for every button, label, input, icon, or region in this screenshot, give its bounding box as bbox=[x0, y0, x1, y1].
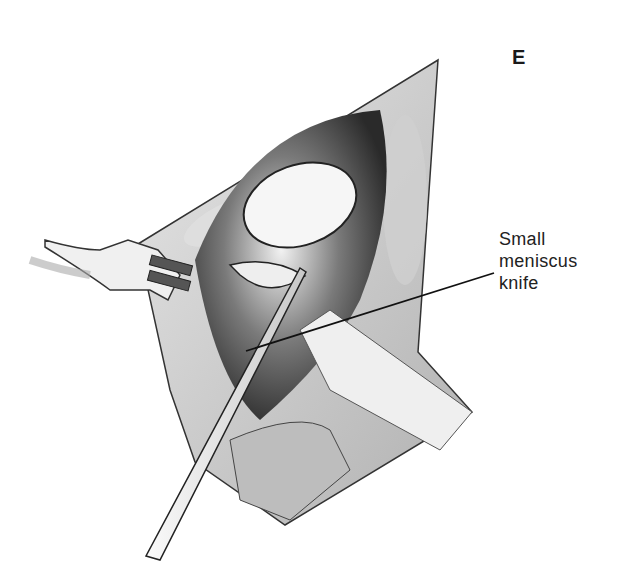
panel-letter: E bbox=[512, 46, 525, 69]
callout-label: Small meniscus knife bbox=[499, 228, 577, 294]
callout-line-3: knife bbox=[499, 272, 577, 294]
callout-line-2: meniscus bbox=[499, 250, 577, 272]
callout-line-1: Small bbox=[499, 228, 577, 250]
